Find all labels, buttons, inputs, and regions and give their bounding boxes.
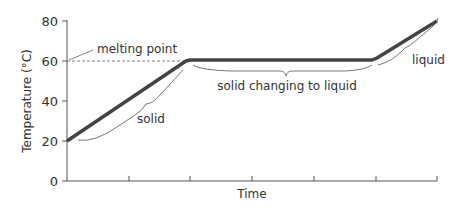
svg-text:60: 60 (41, 54, 58, 69)
svg-text:40: 40 (41, 94, 58, 109)
y-ticks (62, 21, 67, 181)
solid-label: solid (137, 112, 165, 126)
y-tick-labels: 0 20 40 60 80 (41, 14, 58, 189)
x-ticks (129, 176, 437, 181)
liquid-label: liquid (412, 53, 445, 67)
melting-point-label: melting point (97, 42, 177, 56)
svg-text:0: 0 (50, 174, 58, 189)
svg-text:80: 80 (41, 14, 58, 29)
changing-brace (193, 65, 372, 76)
y-axis-label: Temperature (°C) (20, 49, 34, 154)
solid-brace (78, 70, 183, 140)
heating-curve-chart: 0 20 40 60 80 Time Temperature (°C) melt… (0, 0, 461, 211)
svg-text:20: 20 (41, 134, 58, 149)
melting-point-leader (69, 50, 93, 60)
changing-label: solid changing to liquid (217, 79, 357, 93)
x-axis-label: Time (236, 187, 266, 201)
